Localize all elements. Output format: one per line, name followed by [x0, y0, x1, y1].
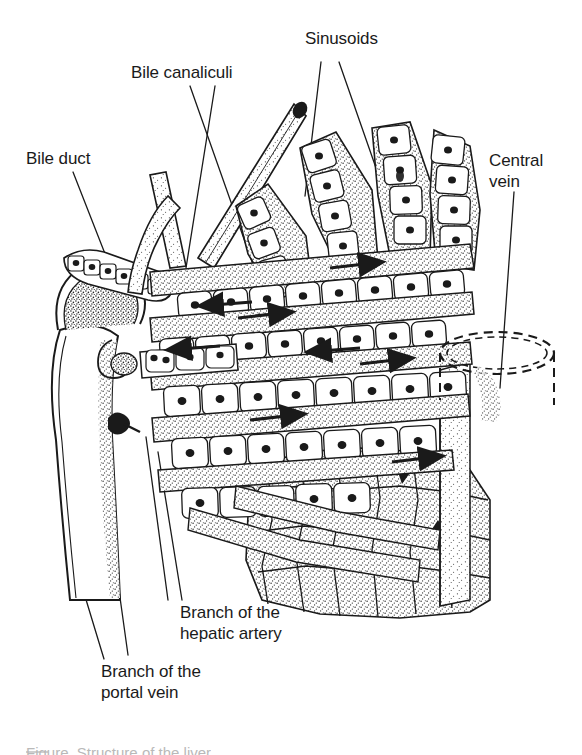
- label-bile-canaliculi: Bile canaliculi: [131, 62, 233, 83]
- label-central-vein-line1: Central: [489, 150, 543, 171]
- hepatic-artery-branch: [108, 412, 130, 434]
- leader-central-vein: [500, 192, 514, 388]
- liver-lobule-figure: Sinusoids Bile canaliculi Bile duct Cent…: [0, 0, 582, 755]
- portal-vein-branch: [52, 261, 145, 600]
- label-portal-vein-line1: Branch of the: [101, 661, 201, 682]
- figure-caption-cropped: Figure Structure of the liver: [26, 744, 211, 755]
- label-hepatic-artery-line2: hepatic artery: [180, 623, 282, 644]
- liver-lobule-illustration: [0, 0, 582, 755]
- liver-tissue-block: [52, 100, 554, 618]
- label-central-vein-line2: vein: [489, 171, 520, 192]
- label-bile-duct: Bile duct: [26, 148, 90, 169]
- hepatocyte-cord: [372, 122, 432, 266]
- label-sinusoids: Sinusoids: [305, 28, 378, 49]
- label-hepatic-artery-line1: Branch of the: [180, 602, 280, 623]
- label-portal-vein-line2: portal vein: [101, 682, 178, 703]
- leader-hepatic-artery-b: [146, 437, 168, 600]
